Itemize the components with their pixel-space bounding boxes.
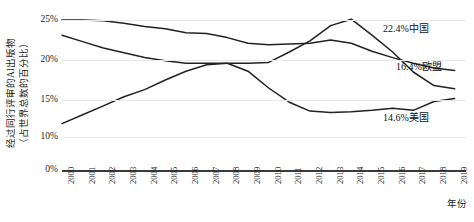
x-tick-2012: 2012 [315, 172, 324, 184]
x-tick-2013: 2013 [336, 172, 345, 184]
gridline-25 [62, 20, 466, 21]
x-tick-2006: 2006 [191, 172, 200, 184]
x-tick-2002: 2002 [108, 172, 117, 184]
x-tick-2014: 2014 [356, 172, 365, 184]
x-tick-2005: 2005 [170, 172, 179, 184]
x-tick-2016: 2016 [398, 172, 407, 184]
x-tick-2008: 2008 [232, 172, 241, 184]
x-tick-2003: 2003 [129, 172, 138, 184]
y-tick-0%: 0% [28, 165, 58, 175]
x-tick-2009: 2009 [253, 172, 262, 184]
gridline-15 [62, 100, 466, 101]
y-tick-20%: 20% [28, 55, 58, 65]
x-tick-2000: 2000 [67, 172, 76, 184]
x-axis-tick-labels: 2000200120022003200420052006200720082009… [62, 172, 466, 220]
y-tick-10%: 10% [28, 132, 58, 142]
y-axis-title-line1: 经过同行评审的AI出版物 [3, 37, 17, 147]
x-tick-2015: 2015 [377, 172, 386, 184]
x-tick-2007: 2007 [212, 172, 221, 184]
x-tick-2018: 2018 [439, 172, 448, 184]
y-tick-25%: 25% [28, 15, 58, 25]
series-label-china: 22.4%中国 [383, 24, 429, 34]
x-tick-2017: 2017 [418, 172, 427, 184]
series-label-usa: 14.6%美国 [383, 113, 429, 123]
y-tick-15%: 15% [28, 95, 58, 105]
gridline-10 [62, 137, 466, 138]
x-tick-2019: 2019 [460, 172, 469, 184]
x-tick-2010: 2010 [274, 172, 283, 184]
series-label-eu: 16.4%欧盟 [396, 62, 442, 72]
x-tick-2011: 2011 [294, 172, 303, 184]
x-tick-2001: 2001 [88, 172, 97, 184]
y-axis-tick-labels: 0%10%15%20%25% [28, 0, 58, 222]
series-lines-group [62, 14, 466, 170]
plot-area [62, 14, 466, 170]
ai-publications-line-chart: 经过同行评审的AI出版物 （占世界总数的百分比） 0%10%15%20%25% … [0, 0, 474, 222]
x-tick-2004: 2004 [150, 172, 159, 184]
x-axis-title: 年份 [447, 196, 467, 210]
